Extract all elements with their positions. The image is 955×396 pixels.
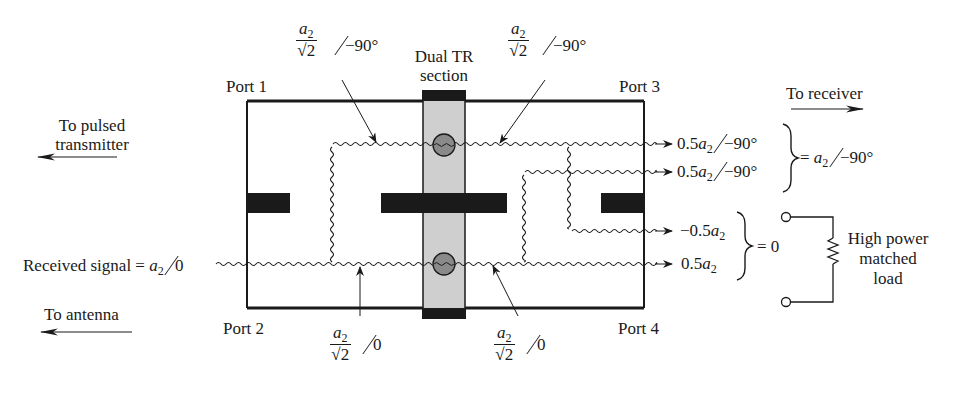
tr-tube-upper — [433, 134, 455, 156]
annotation-top-right: a2 √2 — [508, 20, 529, 61]
angle-value: 0 — [175, 256, 184, 275]
subscript: 2 — [520, 27, 526, 41]
tr-tube-lower — [433, 253, 455, 275]
angle-value: −90° — [345, 36, 378, 55]
var: a — [149, 256, 158, 275]
angle-value: 0 — [373, 335, 382, 354]
var: a — [698, 162, 707, 181]
matched-load-resistor — [782, 213, 839, 307]
label-line: section — [406, 66, 482, 85]
label-line: load — [842, 269, 934, 289]
annotation-top-left: a2 √2 — [296, 20, 317, 61]
var: a — [299, 19, 308, 38]
coefficient: −0.5 — [680, 221, 711, 240]
received-signal-text: Received signal = — [23, 256, 149, 275]
wave-left-coupling — [331, 147, 334, 262]
subscript: 2 — [707, 142, 713, 156]
sum-load: = 0 — [757, 237, 779, 256]
label-received-signal: Received signal = a2 0 — [23, 256, 183, 277]
subscript: 2 — [822, 156, 828, 170]
label-matched-load: High power matched load — [842, 229, 934, 289]
sum-receiver: = a2 −90° — [800, 148, 873, 169]
label-line: transmitter — [36, 135, 148, 154]
denominator: √2 — [296, 41, 317, 61]
var: a — [333, 323, 342, 342]
label-to-pulsed-transmitter: To pulsed transmitter — [36, 116, 148, 154]
label-port-2: Port 2 — [223, 319, 264, 338]
angle-value: −90° — [840, 148, 873, 167]
annotation-top-right-angle: −90° — [546, 36, 586, 55]
output-port4-lower: 0.5a2 — [681, 254, 717, 275]
subscript: 2 — [342, 331, 348, 345]
var: a — [511, 19, 520, 38]
label-line: High power — [842, 229, 934, 249]
wave-right-coupling — [568, 147, 571, 229]
subscript: 2 — [719, 229, 725, 243]
label-port-4: Port 4 — [618, 319, 659, 338]
denominator: √2 — [494, 345, 515, 365]
annotation-top-left-angle: −90° — [338, 36, 378, 55]
subscript: 2 — [711, 262, 717, 276]
angle-value: −90° — [724, 134, 757, 153]
label-to-receiver: To receiver — [786, 84, 863, 103]
denominator: √2 — [508, 41, 529, 61]
label-port-1: Port 1 — [226, 77, 267, 96]
subscript: 2 — [506, 331, 512, 345]
output-port4-upper: −0.5a2 — [680, 221, 725, 242]
center-wall-bar — [381, 193, 507, 213]
var: a — [497, 323, 506, 342]
label-line: To pulsed — [36, 116, 148, 135]
annotation-bottom-right: a2 √2 — [494, 324, 515, 365]
wave-mid-coupling — [523, 175, 526, 262]
left-wall-post — [247, 193, 290, 213]
brace-load — [737, 212, 752, 280]
var: a — [702, 254, 711, 273]
angle-value: 0 — [537, 335, 546, 354]
right-wall-post — [601, 193, 644, 213]
label-dual-tr-section: Dual TR section — [406, 47, 482, 85]
output-arrowheads — [655, 144, 672, 264]
subscript: 2 — [158, 264, 164, 278]
var: a — [698, 134, 707, 153]
label-line: Dual TR — [406, 47, 482, 66]
label-port-3: Port 3 — [619, 77, 660, 96]
brace-receiver — [783, 124, 798, 192]
wave-second-path — [525, 171, 657, 174]
label-line: matched — [842, 249, 934, 269]
subscript: 2 — [707, 170, 713, 184]
annotation-bottom-right-angle: 0 — [530, 335, 546, 354]
output-port3-upper: 0.5a2 −90° — [677, 134, 757, 155]
subscript: 2 — [308, 27, 314, 41]
coefficient: 0.5 — [681, 254, 702, 273]
annotation-bottom-left-angle: 0 — [366, 335, 382, 354]
equals: = — [800, 148, 814, 167]
denominator: √2 — [330, 345, 351, 365]
label-to-antenna: To antenna — [44, 305, 119, 324]
coefficient: 0.5 — [677, 134, 698, 153]
angle-value: −90° — [724, 162, 757, 181]
annotation-bottom-left: a2 √2 — [330, 324, 351, 365]
wave-upper-path — [333, 143, 657, 146]
angle-value: −90° — [553, 36, 586, 55]
output-port3-lower: 0.5a2 −90° — [677, 162, 757, 183]
coefficient: 0.5 — [677, 162, 698, 181]
